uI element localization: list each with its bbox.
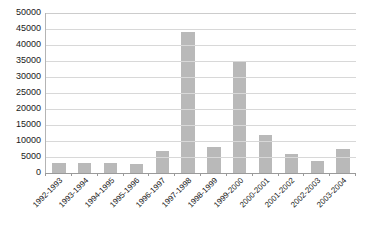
gridline [46,141,356,142]
y-tick-label: 20000 [16,104,41,113]
y-tick-label: 40000 [16,40,41,49]
gridline [46,29,356,30]
gridline [46,61,356,62]
bar [156,151,169,173]
bar [130,164,143,173]
bar [78,163,91,173]
bar [104,163,117,173]
gridline [46,77,356,78]
y-tick-label: 5000 [21,152,41,161]
bar [311,161,324,173]
gridline [46,109,356,110]
y-tick-label: 45000 [16,24,41,33]
y-tick-label: 30000 [16,72,41,81]
y-tick-label: 50000 [16,8,41,17]
plot-area [45,13,356,174]
gridline [46,93,356,94]
gridline [46,13,356,14]
bar [336,149,349,173]
gridline [46,125,356,126]
y-tick-label: 25000 [16,88,41,97]
bar [181,32,194,173]
y-tick-label: 35000 [16,56,41,65]
bar-chart: 0500010000150002000025000300003500040000… [0,0,370,234]
gridline [46,157,356,158]
bar [52,163,65,173]
bar [207,147,220,173]
x-axis: 1992-19931993-19941994-19951995-19961996… [0,176,370,234]
y-tick-label: 15000 [16,120,41,129]
gridline [46,45,356,46]
y-tick-label: 10000 [16,136,41,145]
